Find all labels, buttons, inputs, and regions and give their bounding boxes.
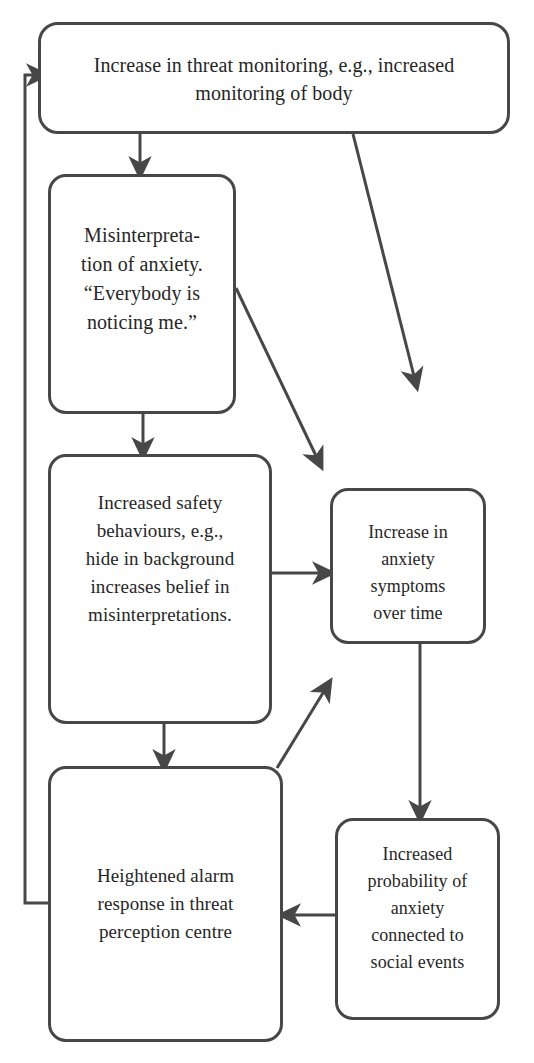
- node-threat-monitoring-label: Increase in threat monitoring, e.g., inc…: [49, 31, 499, 107]
- node-safety-behaviours: Increased safety behaviours, e.g., hide …: [48, 454, 272, 724]
- node-safety-behaviours-label: Increased safety behaviours, e.g., hide …: [59, 463, 261, 629]
- edge-alarm-to-safety: [277, 688, 326, 768]
- node-anxiety-probability-label: Increased probability of anxiety connect…: [346, 827, 489, 976]
- flowchart-diagram: Increase in threat monitoring, e.g., inc…: [0, 0, 534, 1063]
- node-alarm-response-label: Heightened alarm response in threat perc…: [59, 862, 272, 946]
- node-misinterpretation: Misinterpreta- tion of anxiety. “Everybo…: [48, 174, 236, 414]
- edge-alarm-to-threat-feedback: [25, 75, 48, 903]
- node-threat-monitoring: Increase in threat monitoring, e.g., inc…: [38, 22, 510, 134]
- node-anxiety-symptoms-label: Increase in anxiety symptoms over time: [341, 497, 475, 627]
- edge-threat-to-diagonal: [353, 134, 415, 380]
- node-anxiety-probability: Increased probability of anxiety connect…: [335, 818, 500, 1020]
- edge-misinterpretation-to-diagonal: [236, 288, 318, 460]
- node-misinterpretation-label: Misinterpreta- tion of anxiety. “Everybo…: [59, 183, 225, 337]
- node-alarm-response: Heightened alarm response in threat perc…: [48, 766, 283, 1042]
- node-anxiety-symptoms: Increase in anxiety symptoms over time: [330, 488, 486, 644]
